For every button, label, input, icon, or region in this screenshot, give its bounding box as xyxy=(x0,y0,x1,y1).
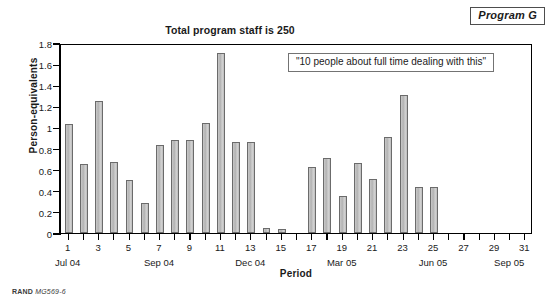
bar xyxy=(232,142,240,233)
x-month-label: Mar 05 xyxy=(327,257,357,268)
bar-series xyxy=(61,45,531,233)
bar xyxy=(354,163,362,233)
bar xyxy=(278,229,286,233)
y-tick-label: 0.8 xyxy=(39,144,52,155)
bar xyxy=(65,124,73,233)
bar xyxy=(156,145,164,233)
y-tick-label: 1.8 xyxy=(39,39,52,50)
bar xyxy=(202,123,210,233)
y-tick-label: 0.6 xyxy=(39,165,52,176)
y-tick-label: 0.2 xyxy=(39,207,52,218)
x-tick-label: 7 xyxy=(156,242,161,253)
x-tick-label: 21 xyxy=(367,242,378,253)
x-tick-mark xyxy=(479,234,480,240)
x-tick-mark xyxy=(174,234,175,240)
bar xyxy=(80,164,88,233)
y-tick-label: 1 xyxy=(47,123,52,134)
bar xyxy=(95,101,103,233)
x-tick-mark xyxy=(509,234,510,240)
x-tick-label: 3 xyxy=(95,242,100,253)
x-tick-mark xyxy=(113,234,114,240)
bar xyxy=(141,203,149,233)
x-tick-mark xyxy=(250,234,251,240)
bar xyxy=(384,137,392,233)
x-tick-mark xyxy=(387,234,388,240)
y-tick-label: 0.4 xyxy=(39,186,52,197)
x-tick-mark xyxy=(83,234,84,240)
bar xyxy=(186,140,194,233)
bar xyxy=(263,228,271,233)
x-tick-mark xyxy=(220,234,221,240)
x-tick-label: 11 xyxy=(215,242,225,253)
x-tick-mark xyxy=(357,234,358,240)
x-month-label: Dec 04 xyxy=(235,257,265,268)
bar xyxy=(247,142,255,233)
chart-title: Total program staff is 250 xyxy=(0,24,460,36)
x-tick-mark xyxy=(235,234,236,240)
y-tick-label: 1.4 xyxy=(39,81,52,92)
x-tick-mark xyxy=(403,234,404,240)
bar xyxy=(217,53,225,234)
x-tick-label: 27 xyxy=(458,242,469,253)
x-month-label: Jun 05 xyxy=(419,257,448,268)
plot-area: "10 people about full time dealing with … xyxy=(60,44,532,234)
bar xyxy=(323,158,331,233)
x-tick-mark xyxy=(281,234,282,240)
bar xyxy=(430,187,438,233)
y-axis: 00.20.40.60.811.21.41.61.8 xyxy=(0,44,60,234)
x-tick-label: 9 xyxy=(187,242,192,253)
x-tick-label: 31 xyxy=(519,242,530,253)
bar xyxy=(126,180,134,233)
bar xyxy=(110,162,118,233)
x-tick-mark xyxy=(189,234,190,240)
figure-footer: RAND MG569-6 xyxy=(12,288,66,295)
x-tick-mark xyxy=(129,234,130,240)
x-tick-label: 19 xyxy=(336,242,347,253)
x-tick-label: 13 xyxy=(245,242,256,253)
figure-root: Program G Total program staff is 250 Per… xyxy=(0,0,555,308)
x-tick-label: 5 xyxy=(126,242,131,253)
x-tick-mark xyxy=(494,234,495,240)
bar xyxy=(339,196,347,233)
y-tick-label: 1.6 xyxy=(39,60,52,71)
x-tick-mark xyxy=(296,234,297,240)
bar xyxy=(415,187,423,233)
program-label-badge: Program G xyxy=(470,7,545,25)
x-tick-label: 15 xyxy=(275,242,286,253)
x-tick-label: 17 xyxy=(306,242,317,253)
x-tick-mark xyxy=(448,234,449,240)
x-month-label: Sep 04 xyxy=(144,257,174,268)
x-tick-mark xyxy=(159,234,160,240)
x-tick-mark xyxy=(144,234,145,240)
bar xyxy=(369,179,377,233)
y-tick-label: 0 xyxy=(47,229,52,240)
x-tick-mark xyxy=(311,234,312,240)
x-tick-mark xyxy=(68,234,69,240)
x-tick-mark xyxy=(98,234,99,240)
x-tick-mark xyxy=(266,234,267,240)
x-month-label: Jul 04 xyxy=(55,257,80,268)
x-tick-mark xyxy=(418,234,419,240)
x-tick-mark xyxy=(342,234,343,240)
bar xyxy=(400,95,408,233)
x-month-label: Sep 05 xyxy=(494,257,524,268)
x-tick-label: 23 xyxy=(397,242,408,253)
x-tick-mark xyxy=(372,234,373,240)
x-tick-label: 29 xyxy=(489,242,500,253)
y-tick-label: 1.2 xyxy=(39,102,52,113)
x-tick-mark xyxy=(205,234,206,240)
x-axis-title: Period xyxy=(60,268,532,279)
x-tick-label: 25 xyxy=(428,242,439,253)
footer-doc-id: MG569-6 xyxy=(35,288,66,295)
x-tick-mark xyxy=(463,234,464,240)
x-tick-mark xyxy=(326,234,327,240)
x-tick-mark xyxy=(524,234,525,240)
bar xyxy=(171,140,179,233)
x-axis: 135791113151719212325272931Jul 04Sep 04D… xyxy=(60,234,532,294)
x-tick-mark xyxy=(433,234,434,240)
bar xyxy=(308,167,316,234)
footer-brand: RAND xyxy=(12,288,33,295)
x-tick-label: 1 xyxy=(65,242,70,253)
